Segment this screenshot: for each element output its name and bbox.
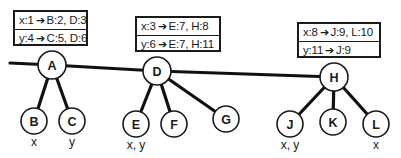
node-label: C	[67, 115, 76, 129]
node-vars-label: y	[69, 135, 75, 149]
node-label: B	[29, 115, 38, 129]
node-H: H	[320, 63, 348, 91]
edge-D-H	[157, 71, 334, 77]
node-D: D	[143, 57, 171, 85]
node-A: A	[38, 51, 66, 79]
node-label: H	[329, 71, 338, 85]
node-label: D	[152, 65, 161, 79]
node-L: Lx	[363, 111, 389, 152]
node-label: G	[221, 113, 231, 127]
node-vars-label: x	[373, 138, 379, 152]
node-E: Ex, y	[123, 111, 149, 152]
node-J: Jx, y	[277, 111, 303, 152]
node-B: Bx	[21, 108, 47, 149]
node-G: G	[213, 106, 239, 132]
node-label: L	[372, 118, 380, 132]
tree-diagram: ABxCyDEx, yFGHJx, yKLx	[0, 0, 401, 158]
node-vars-label: x, y	[127, 138, 146, 152]
node-label: J	[287, 118, 294, 132]
node-label: A	[47, 59, 56, 73]
node-K: K	[320, 109, 346, 135]
node-label: K	[328, 116, 337, 130]
node-label: F	[170, 118, 178, 132]
node-C: Cy	[59, 108, 85, 149]
node-label: E	[132, 118, 140, 132]
node-vars-label: x	[31, 135, 37, 149]
edge-A-D	[52, 65, 157, 71]
node-vars-label: x, y	[281, 138, 300, 152]
node-F: F	[161, 111, 187, 137]
